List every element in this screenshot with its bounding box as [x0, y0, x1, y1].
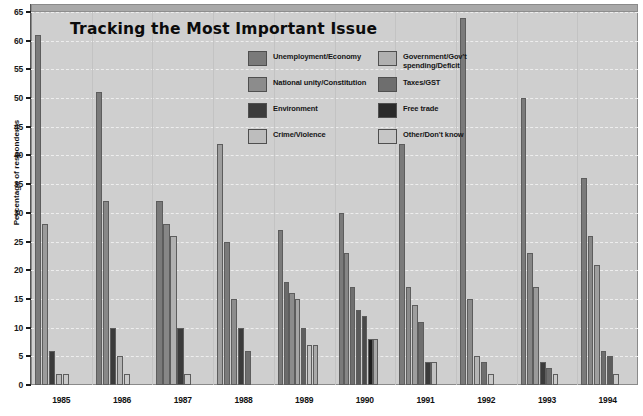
x-axis: 1985198619871988198919901991199219931994 [31, 385, 638, 416]
group-separator [213, 12, 214, 385]
bar [356, 310, 361, 385]
bar [245, 351, 251, 385]
bar [289, 293, 294, 385]
legend-swatch-icon [248, 51, 267, 66]
bar [278, 230, 283, 385]
bar [594, 265, 600, 386]
x-tick-label: 1989 [295, 395, 313, 405]
x-tick-label: 1985 [52, 395, 70, 405]
bar [124, 374, 130, 385]
legend-label: Crime/Violence [273, 128, 326, 139]
legend-item[interactable]: National unity/Constitution [248, 76, 366, 92]
y-tick-label: 55 [14, 64, 23, 74]
bar [103, 201, 109, 385]
legend-swatch-icon [248, 129, 267, 144]
bar [96, 92, 102, 385]
legend-swatch-icon [248, 77, 267, 92]
y-tick-label: 65 [14, 7, 23, 17]
legend-item[interactable]: Environment [248, 102, 318, 118]
bar [184, 374, 190, 385]
legend-item[interactable]: Taxes/GST [378, 76, 440, 92]
legend-label: Unemployment/Economy [273, 50, 361, 61]
bar [301, 328, 306, 385]
bar [49, 351, 55, 385]
x-tick-label: 1991 [416, 395, 434, 405]
legend-label: Government/Gov't spending/Deficit [403, 50, 467, 70]
x-tick-label: 1992 [477, 395, 495, 405]
y-tick-label: 45 [14, 122, 23, 132]
bar [474, 356, 480, 385]
bar [217, 144, 223, 385]
bar [373, 339, 378, 385]
bar [406, 287, 412, 385]
x-tick-label: 1990 [356, 395, 374, 405]
chart-figure: Percentage of respondents 05101520253035… [0, 0, 643, 416]
bar [224, 242, 230, 385]
bar [418, 322, 424, 385]
bar [588, 236, 594, 385]
y-tick-label: 60 [14, 36, 23, 46]
chart-title: Tracking the Most Important Issue [70, 20, 377, 38]
chart-legend: Unemployment/EconomyNational unity/Const… [248, 50, 538, 150]
y-tick-label: 25 [14, 237, 23, 247]
legend-label: Environment [273, 102, 318, 113]
y-tick-label: 35 [14, 179, 23, 189]
legend-swatch-icon [378, 77, 397, 92]
bar [63, 374, 69, 385]
legend-item[interactable]: Unemployment/Economy [248, 50, 361, 66]
legend-item[interactable]: Crime/Violence [248, 128, 326, 144]
bar [231, 299, 237, 385]
bar [117, 356, 123, 385]
bar [156, 201, 162, 385]
bar [42, 224, 48, 385]
bar [177, 328, 183, 385]
bar [368, 339, 373, 385]
group-separator [577, 12, 578, 385]
bar [546, 368, 552, 385]
bar [613, 374, 619, 385]
bar [399, 144, 405, 385]
bar [431, 362, 437, 385]
bar [344, 253, 349, 385]
legend-label: Other/Don't know [403, 128, 464, 139]
legend-swatch-icon [248, 103, 267, 118]
legend-item[interactable]: Government/Gov't spending/Deficit [378, 50, 467, 70]
bar [238, 328, 244, 385]
bar [553, 374, 559, 385]
y-tick-label: 10 [14, 323, 23, 333]
y-axis: Percentage of respondents 05101520253035… [0, 0, 31, 389]
bar [467, 299, 473, 385]
bar [540, 362, 546, 385]
bar [481, 362, 487, 385]
legend-item[interactable]: Other/Don't know [378, 128, 464, 144]
bar [170, 236, 176, 385]
legend-item[interactable]: Free trade [378, 102, 438, 118]
bar [284, 282, 289, 385]
bar [601, 351, 607, 385]
bar [307, 345, 312, 385]
bar [412, 305, 418, 385]
x-tick-label: 1988 [234, 395, 252, 405]
bar [313, 345, 318, 385]
bar [35, 35, 41, 385]
bar [362, 316, 367, 385]
bar [350, 287, 355, 385]
y-tick-label: 50 [14, 93, 23, 103]
legend-swatch-icon [378, 103, 397, 118]
bar [110, 328, 116, 385]
bar [339, 213, 344, 385]
y-tick-label: 30 [14, 208, 23, 218]
legend-label: Free trade [403, 102, 438, 113]
x-tick-label: 1986 [113, 395, 131, 405]
group-separator [92, 12, 93, 385]
bar [295, 299, 300, 385]
bar [425, 362, 431, 385]
bar [488, 374, 494, 385]
bar [581, 178, 587, 385]
legend-swatch-icon [378, 51, 397, 66]
y-tick-label: 0 [18, 380, 23, 390]
legend-label: National unity/Constitution [273, 76, 366, 87]
legend-label: Taxes/GST [403, 76, 440, 87]
y-tick-label: 40 [14, 150, 23, 160]
bar [163, 224, 169, 385]
